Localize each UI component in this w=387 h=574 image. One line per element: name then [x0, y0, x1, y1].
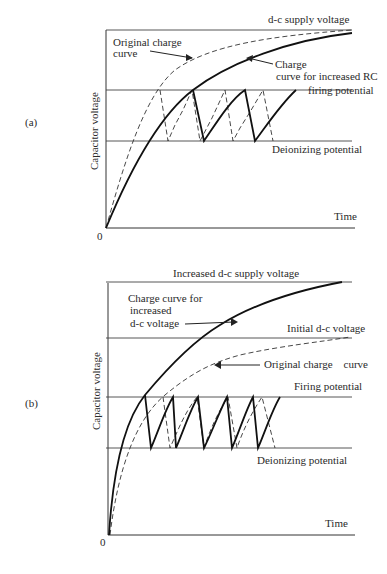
increased-label-b-3: d-c voltage [130, 317, 179, 329]
rc-sawtooth-a [193, 90, 296, 141]
arrowhead-rc-a [246, 55, 253, 62]
time-label-a: Time [334, 210, 357, 222]
original-label-a-2: curve [113, 47, 138, 59]
original-curve-a [106, 30, 352, 228]
firing-label-a: firing potential [308, 84, 374, 96]
panel-a: d-c supply voltage Original charge curve… [25, 13, 378, 242]
ylabel-a: Capacitor voltage [88, 92, 100, 170]
panel-tag-a: (a) [25, 116, 38, 129]
arrowhead-original-b [214, 361, 221, 369]
arrowhead-increased-b [231, 318, 238, 326]
diagram-canvas: d-c supply voltage Original charge curve… [0, 0, 387, 574]
arrow-increased-b [185, 322, 234, 324]
deionizing-label-b: Deionizing potential [257, 454, 347, 466]
origin-label-a: 0 [97, 230, 103, 242]
deionizing-label-a: Deionizing potential [272, 143, 362, 155]
rc-label-a-2: curve for increased RC [276, 70, 378, 82]
rc-curve-a [106, 33, 352, 228]
initial-label-b: Initial d-c voltage [287, 322, 365, 334]
firing-label-b: Firing potential [294, 380, 362, 392]
panel-b: Increased d-c supply voltage Charge curv… [25, 267, 368, 548]
supply-label-a: d-c supply voltage [268, 13, 349, 25]
rc-label-a-1: Charge [275, 58, 307, 70]
increased-label-b-2: increased [130, 304, 172, 316]
panel-tag-b: (b) [25, 397, 38, 410]
arrow-original-a [150, 51, 192, 58]
ylabel-b: Capacitor voltage [90, 352, 102, 430]
original-sawtooth-a [160, 90, 273, 141]
origin-label-b: 0 [100, 536, 106, 548]
increased-supply-label-b: Increased d-c supply voltage [173, 267, 299, 279]
time-label-b: Time [325, 517, 348, 529]
original-label-b: Original charge curve [264, 358, 368, 370]
increased-label-b-1: Charge curve for [128, 292, 203, 304]
increased-sawtooth-b [145, 395, 280, 448]
